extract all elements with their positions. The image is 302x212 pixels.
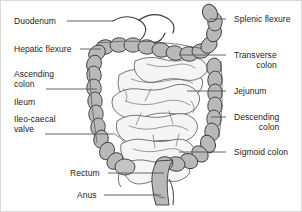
label-descending-colon: Descendingcolon [234,113,279,132]
label-jejunum-line-1: Jejunum [234,87,266,97]
ascending-colon [86,66,109,150]
label-ileum-line-1: Ileum [14,98,35,108]
label-transverse-colon-line-2: colon [234,61,277,71]
label-ascending-colon: Ascendingcolon [14,70,54,89]
label-splenic-flexure: Splenic flexure [234,15,291,25]
label-hepatic-flexure-line-1: Hepatic flexure [14,45,71,55]
label-descending-colon-line-2: colon [234,123,279,133]
label-ileo-caecal-valve-line-2: valve [14,125,56,135]
descending-colon [204,57,223,141]
label-sigmoid-colon: Sigmoid colon [234,148,288,158]
splenic-flexure [198,2,224,57]
label-jejunum: Jejunum [234,87,266,97]
label-duodenum-line-1: Duodenum [14,17,56,27]
label-duodenum: Duodenum [14,17,56,27]
label-hepatic-flexure: Hepatic flexure [14,45,71,55]
label-rectum-line-1: Rectum [70,169,100,179]
label-ascending-colon-line-2: colon [14,80,54,90]
label-anus-line-1: Anus [77,191,97,201]
large-intestine-illustration [1,1,301,211]
label-rectum: Rectum [70,169,100,179]
label-ileo-caecal-valve: Ileo-caecalvalve [14,115,56,134]
label-splenic-flexure-line-1: Splenic flexure [234,15,291,25]
label-sigmoid-colon-line-1: Sigmoid colon [234,148,288,158]
label-transverse-colon: Transversecolon [234,51,277,70]
diagram-page: DuodenumHepatic flexureAscendingcolonIle… [0,0,302,212]
label-anus: Anus [77,191,97,201]
label-ileum: Ileum [14,98,35,108]
